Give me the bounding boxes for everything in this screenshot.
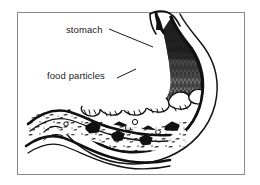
label-stomach: stomach bbox=[66, 24, 103, 35]
leader-line-food-particles bbox=[117, 69, 136, 78]
leader-lines bbox=[109, 29, 153, 78]
leader-line-stomach bbox=[109, 29, 153, 47]
figure-canvas: stomach food particles bbox=[0, 0, 260, 185]
label-food-particles: food particles bbox=[47, 70, 105, 81]
stomach-diagram bbox=[0, 0, 260, 185]
